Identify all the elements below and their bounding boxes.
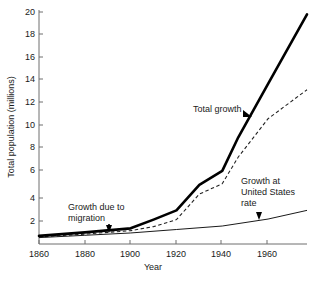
migration-label-line1: Growth due to <box>68 202 125 212</box>
us-rate-label-line1: Growth at <box>241 176 281 186</box>
total-growth-label: Total growth <box>193 104 242 114</box>
y-tick-marks <box>39 12 43 221</box>
x-tick-label-1940: 1940 <box>211 249 231 259</box>
y-tick-label-16: 16 <box>25 52 35 62</box>
y-tick-labels: 20 18 16 14 12 10 8 6 4 2 <box>25 7 35 226</box>
x-tick-label-1900: 1900 <box>120 249 140 259</box>
x-axis-title: Year <box>144 262 162 272</box>
annotation-total-growth: Total growth <box>193 104 252 117</box>
y-tick-label-10: 10 <box>25 120 35 130</box>
x-tick-label-1860: 1860 <box>29 249 49 259</box>
us-rate-label-line2: United States <box>241 187 296 197</box>
annotation-us-rate: Growth at United States rate <box>241 176 296 220</box>
y-tick-label-20: 20 <box>25 7 35 17</box>
y-tick-label-12: 12 <box>25 97 35 107</box>
population-growth-chart: 20 18 16 14 12 10 8 6 4 2 1860 1880 1900… <box>0 0 315 282</box>
y-tick-label-6: 6 <box>30 165 35 175</box>
chart-canvas: 20 18 16 14 12 10 8 6 4 2 1860 1880 1900… <box>0 0 315 282</box>
x-tick-label-1880: 1880 <box>75 249 95 259</box>
arrow-down-icon-us-rate <box>256 212 262 220</box>
x-tick-label-1920: 1920 <box>166 249 186 259</box>
x-tick-label-1960: 1960 <box>257 249 277 259</box>
y-tick-label-8: 8 <box>30 142 35 152</box>
y-tick-label-14: 14 <box>25 74 35 84</box>
x-tick-labels: 1860 1880 1900 1920 1940 1960 <box>29 249 277 259</box>
y-tick-label-4: 4 <box>30 193 35 203</box>
y-axis-title: Total population (millions) <box>6 76 16 178</box>
y-tick-label-2: 2 <box>30 216 35 226</box>
us-rate-label-line3: rate <box>241 198 257 208</box>
x-tick-marks <box>39 240 267 244</box>
y-tick-label-18: 18 <box>25 29 35 39</box>
migration-label-line2: migration <box>68 213 105 223</box>
